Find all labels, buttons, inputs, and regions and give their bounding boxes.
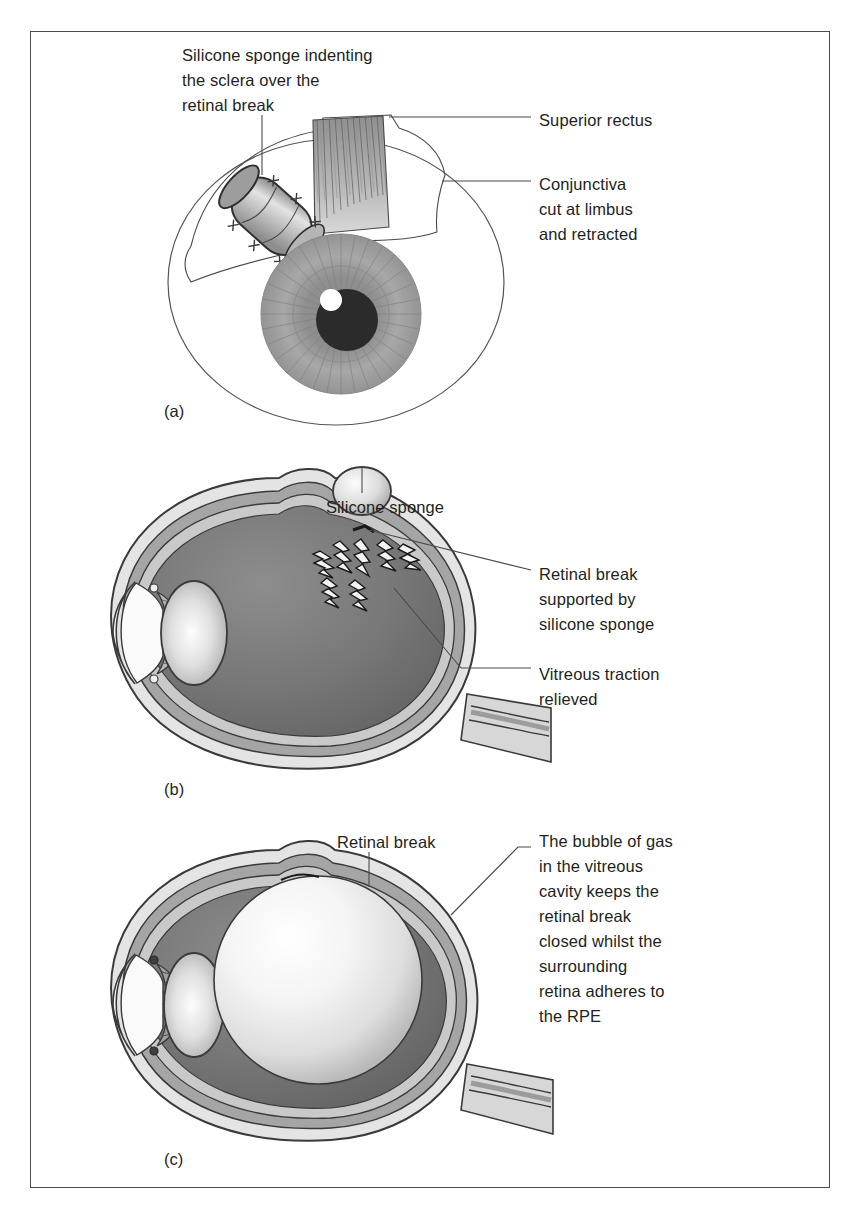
gas-bubble [214, 876, 422, 1084]
silicone-sponge-label: Silicone sponge [326, 495, 526, 520]
retinal-break-supported-label: Retinal break supported by silicone spon… [539, 562, 769, 637]
panel-b-letter: (b) [164, 780, 184, 799]
panel-c-letter: (c) [164, 1150, 183, 1169]
optic-nerve [461, 694, 551, 762]
panel-c: Retinal break The bubble of gas in the v… [31, 802, 831, 1189]
conjunctiva-label: Conjunctiva cut at limbus and retracted [539, 172, 769, 247]
panel-b: Silicone sponge Retinal break supported … [31, 440, 831, 820]
corneal-light-reflex [320, 289, 342, 311]
panel-a: Silicone sponge indenting the sclera ove… [31, 32, 831, 440]
leader-gas-bubble [451, 847, 531, 915]
figure-border-frame: Silicone sponge indenting the sclera ove… [30, 31, 830, 1188]
silicone-sponge-indenting-label: Silicone sponge indenting the sclera ove… [182, 43, 432, 118]
panel-a-letter: (a) [164, 402, 184, 421]
superior-rectus-label: Superior rectus [539, 108, 789, 133]
optic-nerve-c [461, 1064, 553, 1134]
gas-bubble-description-label: The bubble of gas in the vitreous cavity… [539, 829, 769, 1029]
retinal-break-label: Retinal break [337, 830, 537, 855]
lens [161, 581, 227, 685]
vitreous-traction-relieved-label: Vitreous traction relieved [539, 662, 769, 712]
